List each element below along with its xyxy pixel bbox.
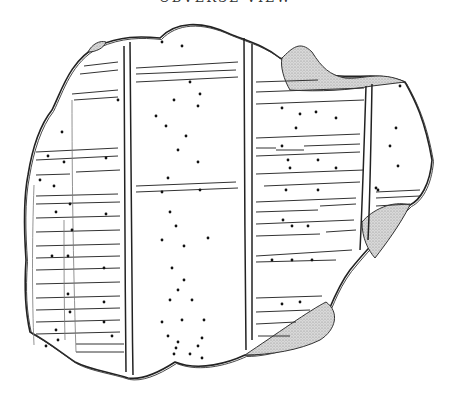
inscription-dot [201,357,204,360]
inscription-dot [175,347,178,350]
inscription-dot [103,267,106,270]
inscription-dot [397,165,400,168]
inscription-dot [335,117,338,120]
inscription-dot [317,159,320,162]
inscription-dot [167,177,170,180]
inscription-dot [291,225,294,228]
inscription-dot [377,189,380,192]
inscription-dot [103,301,106,304]
inscription-dot [69,311,72,314]
inscription-dot [311,259,314,262]
inscription-dot [282,219,285,222]
inscription-dot [281,303,284,306]
inscription-dot [199,93,202,96]
inscription-dot [71,229,74,232]
inscription-dot [161,191,164,194]
inscription-dot [285,189,288,192]
inscription-dot [161,41,164,44]
inscription-dot [105,157,108,160]
inscription-dot [69,203,72,206]
inscription-dot [181,45,184,48]
inscription-dot [173,353,176,356]
inscription-dot [161,321,164,324]
inscription-dot [111,335,114,338]
inscription-dot [67,255,70,258]
inscription-dot [53,185,56,188]
inscription-dot [183,279,186,282]
inscription-dot [375,187,378,190]
inscription-dot [317,189,320,192]
inscription-dot [281,145,284,148]
inscription-dot [39,179,42,182]
inscription-dot [289,167,292,170]
inscription-dot [307,225,310,228]
inscription-dot [55,211,58,214]
inscription-dot [175,225,178,228]
inscription-dot [67,293,70,296]
inscription-dot [55,329,58,332]
inscription-dot [291,259,294,262]
inscription-dot [287,159,290,162]
inscription-dot [169,211,172,214]
inscription-dot [299,113,302,116]
inscription-dot [299,301,302,304]
inscription-dot [105,213,108,216]
inscription-dot [185,135,188,138]
inscription-dot [199,189,202,192]
inscription-dot [103,321,106,324]
inscription-dot [281,107,284,110]
inscription-dot [191,299,194,302]
inscription-dot [335,167,338,170]
inscription-dot [173,99,176,102]
inscription-dot [189,81,192,84]
inscription-dot [197,345,200,348]
inscription-dot [389,145,392,148]
inscription-dot [57,339,60,342]
inscription-dot [171,267,174,270]
inscription-dot [161,239,164,242]
inscription-dot [315,111,318,114]
inscription-dot [207,237,210,240]
inscription-dot [203,319,206,322]
inscription-dot [183,245,186,248]
inscription-dot [181,319,184,322]
inscription-dot [271,259,274,262]
inscription-dot [167,335,170,338]
inscription-dot [189,353,192,356]
inscription-dot [155,115,158,118]
inscription-dot [395,127,398,130]
inscription-dot [201,337,204,340]
upper-right-chip [281,46,405,91]
inscription-dot [177,289,180,292]
inscription-dot [295,127,298,130]
inscription-dot [399,85,402,88]
inscription-dot [165,125,168,128]
inscription-dot [197,161,200,164]
inscription-dot [45,345,48,348]
inscription-dot [61,131,64,134]
inscription-dot [177,341,180,344]
inscription-dot [169,299,172,302]
inscription-dot [117,99,120,102]
inscription-dot [177,149,180,152]
tablet-drawing [0,0,451,397]
inscription-dot [197,105,200,108]
inscription-dot [51,255,54,258]
inscription-dot [63,161,66,164]
inscription-dot [47,155,50,158]
